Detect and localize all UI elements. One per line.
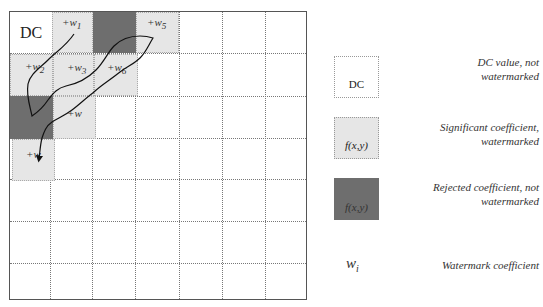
w5-label: +w5 [147, 16, 166, 31]
grid-line [10, 221, 306, 222]
legend-rejected-text: Rejected coefficient, not watermarked [379, 180, 539, 208]
legend-watermark-symbol: wi [346, 255, 359, 274]
legend-significant-box: f(x,y) [334, 117, 379, 159]
cell-w5: +w5 [136, 12, 179, 53]
legend-significant-text: Significant coefficient, watermarked [379, 120, 539, 148]
rejected-cell [10, 96, 53, 139]
w2-label: +w2 [25, 60, 44, 75]
cell-w2: +w2 [10, 54, 53, 96]
w3-label: +w3 [67, 61, 86, 76]
cell-w7: +w [53, 96, 96, 139]
legend-dc-text: DC value, not watermarked [379, 55, 539, 83]
w7-label: +w [67, 107, 82, 122]
legend-rejected-label: f(x,y) [345, 201, 368, 213]
legend-significant-label: f(x,y) [345, 139, 368, 151]
legend-dc-label: DC [349, 78, 364, 90]
cell-w6: +w6 [94, 54, 138, 96]
coefficient-grid: DC +w1 +w5 +w2 +w3 +w6 +w +w [9, 11, 307, 300]
w8-label: +w [26, 148, 41, 163]
dc-label: DC [20, 24, 42, 42]
rejected-cell [93, 12, 136, 53]
grid-line [265, 12, 266, 299]
grid-line [10, 263, 306, 264]
cell-w1: +w1 [52, 12, 93, 53]
w1-label: +w1 [62, 16, 81, 31]
cell-w8: +w [12, 139, 55, 181]
dc-cell: DC [10, 12, 51, 53]
legend-dc-box: DC [334, 56, 379, 98]
grid-line [222, 12, 223, 299]
w6-label: +w6 [107, 61, 126, 76]
cell-w3: +w3 [53, 54, 94, 96]
grid-line [179, 12, 180, 299]
legend-watermark-text: Watermark coefficient [379, 258, 539, 272]
legend-rejected-box: f(x,y) [334, 178, 379, 220]
